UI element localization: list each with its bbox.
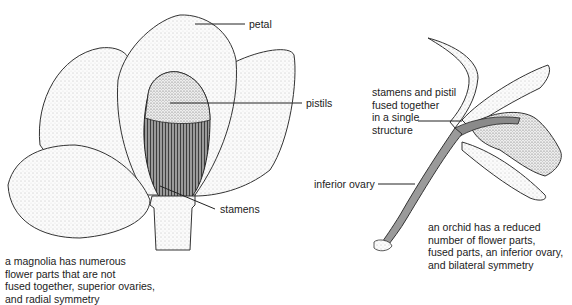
magnolia-caption-line: a magnolia has numerous — [5, 255, 155, 268]
orchid-caption-line: an orchid has a reduced — [428, 221, 563, 234]
fused-structure-label-line: structure — [372, 124, 456, 137]
orchid-drawing — [374, 38, 561, 251]
magnolia-caption-line: flower parts that are not — [5, 268, 155, 281]
magnolia-caption-line: and radial symmetry — [5, 293, 155, 305]
orchid-caption-line: fused parts, an inferior ovary, — [428, 246, 563, 259]
magnolia-caption: a magnolia has numerous flower parts tha… — [5, 255, 155, 305]
orchid-caption: an orchid has a reduced number of flower… — [428, 221, 563, 271]
fused-structure-label-line: stamens and pistil — [372, 86, 456, 99]
fused-structure-label: stamens and pistil fused together in a s… — [372, 86, 456, 136]
petal-label: petal — [249, 18, 272, 30]
pistils-label: pistils — [306, 97, 332, 109]
fused-structure-label-line: fused together — [372, 99, 456, 112]
fused-structure-label-line: in a single — [372, 111, 456, 124]
magnolia-stem — [150, 196, 195, 250]
magnolia-caption-line: fused together, superior ovaries, — [5, 280, 155, 293]
inferior-ovary-label: inferior ovary — [314, 178, 375, 190]
orchid-caption-line: and bilateral symmetry — [428, 259, 563, 272]
stamens-label: stamens — [220, 203, 260, 215]
orchid-caption-line: number of flower parts, — [428, 234, 563, 247]
